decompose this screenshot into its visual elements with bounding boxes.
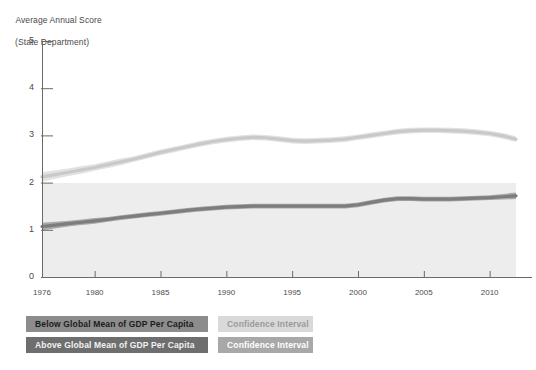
y-tick-label: 4 — [18, 82, 34, 92]
legend-item-confidence-interval-below[interactable]: Confidence Interval — [218, 316, 313, 332]
x-tick-label: 2000 — [338, 288, 378, 297]
plot-area — [0, 0, 536, 370]
legend-row-above: Above Global Mean of GDP Per Capita Conf… — [26, 337, 313, 353]
x-tick-label: 2010 — [470, 288, 510, 297]
legend-item-above-global-mean[interactable]: Above Global Mean of GDP Per Capita — [26, 337, 208, 353]
confidence-band-0 — [42, 127, 516, 181]
y-tick-label: 5 — [18, 35, 34, 45]
x-tick-label: 1990 — [206, 288, 246, 297]
y-tick-label: 2 — [18, 177, 34, 187]
x-tick-label: 1976 — [22, 288, 62, 297]
x-tick-label: 1985 — [141, 288, 181, 297]
legend-row-below: Below Global Mean of GDP Per Capita Conf… — [26, 316, 313, 332]
x-tick-label: 2005 — [404, 288, 444, 297]
chart-legend: Below Global Mean of GDP Per Capita Conf… — [26, 316, 313, 358]
legend-item-below-global-mean[interactable]: Below Global Mean of GDP Per Capita — [26, 316, 208, 332]
x-tick-label: 1980 — [75, 288, 115, 297]
legend-item-confidence-interval-above[interactable]: Confidence Interval — [218, 337, 313, 353]
x-tick-label: 1995 — [272, 288, 312, 297]
y-tick-label: 0 — [18, 271, 34, 281]
chart-figure: Average Annual Score (State Department) … — [0, 0, 536, 370]
y-tick-label: 1 — [18, 224, 34, 234]
y-tick-label: 3 — [18, 129, 34, 139]
